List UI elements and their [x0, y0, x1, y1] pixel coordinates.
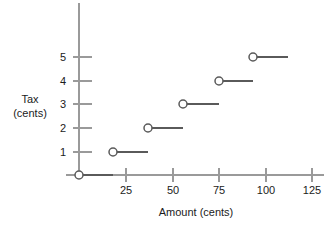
- step-endpoint-marker-4: [215, 77, 223, 85]
- y-tick-label-1: 1: [60, 146, 66, 158]
- y-axis-title-line-2: (cents): [13, 107, 47, 119]
- y-tick-label-2: 2: [60, 122, 66, 134]
- x-tick-label-100: 100: [257, 184, 275, 196]
- y-axis-title-line-1: Tax: [21, 93, 39, 105]
- x-axis-title: Amount (cents): [159, 206, 234, 218]
- step-function-chart: 5 4 3 2 1 25 50 75 100 125: [0, 0, 328, 230]
- x-axis-tick-labels: 25 50 75 100 125: [120, 184, 321, 196]
- y-axis-ticks: [73, 57, 92, 152]
- y-tick-label-5: 5: [60, 51, 66, 63]
- chart-plot-area: 5 4 3 2 1 25 50 75 100 125: [0, 0, 328, 230]
- step-endpoint-marker-2: [144, 124, 152, 132]
- y-tick-label-4: 4: [60, 75, 66, 87]
- y-tick-label-3: 3: [60, 98, 66, 110]
- step-endpoint-marker-0: [75, 171, 83, 179]
- step-endpoint-marker-5: [249, 53, 257, 61]
- y-axis-tick-labels: 5 4 3 2 1: [60, 51, 66, 158]
- step-series-tax-owed: [75, 53, 288, 179]
- step-endpoint-marker-3: [179, 100, 187, 108]
- step-endpoint-marker-1: [109, 148, 117, 156]
- axes-group: [66, 3, 324, 175]
- axis-titles: Tax (cents) Amount (cents): [13, 93, 233, 218]
- x-tick-label-25: 25: [120, 184, 132, 196]
- x-tick-label-75: 75: [213, 184, 225, 196]
- x-tick-label-50: 50: [167, 184, 179, 196]
- x-tick-label-125: 125: [303, 184, 321, 196]
